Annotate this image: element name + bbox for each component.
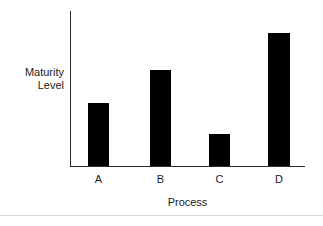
x-axis-line [70,166,305,167]
y-axis-title: Maturity Level [4,66,64,91]
bar-b [150,70,171,166]
x-tick-label-a: A [79,173,119,186]
y-axis-title-line-1: Maturity [25,66,64,78]
bar-chart-figure: A B C D Process Maturity Level [0,0,323,226]
x-tick-label-b: B [141,173,181,186]
bar-c [209,134,230,166]
bar-a [88,103,109,166]
bar-d [268,33,290,166]
x-tick-label-c: C [200,173,240,186]
bottom-rule [0,215,323,216]
x-axis-title: Process [120,196,255,209]
x-tick-label-d: D [259,173,299,186]
y-axis-line [70,11,71,167]
y-axis-title-line-2: Level [4,79,64,92]
